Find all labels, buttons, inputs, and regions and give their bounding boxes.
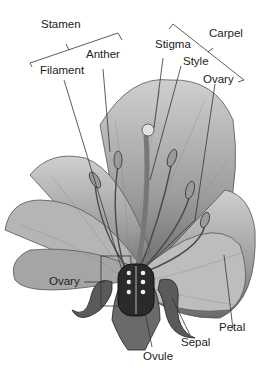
- flower-illustration: [0, 0, 259, 374]
- label-stigma: Stigma: [155, 39, 191, 51]
- label-style: Style: [183, 56, 209, 68]
- label-ovary-top: Ovary: [203, 74, 234, 86]
- label-ovary-left: Ovary: [49, 276, 80, 288]
- label-stamen: Stamen: [41, 19, 81, 31]
- label-carpel: Carpel: [209, 28, 243, 40]
- label-petal: Petal: [219, 322, 245, 334]
- label-sepal: Sepal: [181, 337, 210, 349]
- label-ovule: Ovule: [143, 351, 173, 363]
- stigma: [142, 124, 154, 136]
- label-filament: Filament: [40, 65, 84, 77]
- label-anther: Anther: [86, 49, 120, 61]
